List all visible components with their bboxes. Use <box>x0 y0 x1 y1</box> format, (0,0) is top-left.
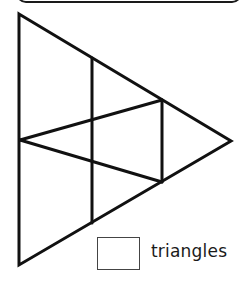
answer-unit-label: triangles <box>151 241 227 261</box>
answer-input-box[interactable] <box>97 237 140 270</box>
outer-triangle <box>19 14 231 265</box>
